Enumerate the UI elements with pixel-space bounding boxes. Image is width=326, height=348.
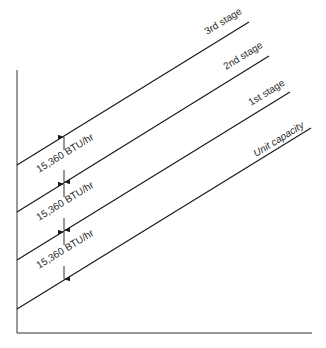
unit-capacity-line: Unit capacity: [17, 119, 311, 309]
stage-line-2nd: 2nd stage: [17, 39, 269, 212]
staging-diagram: 3rd stage 2nd stage 1st stage Unit capac…: [0, 0, 326, 348]
stage-line-1st: 1st stage: [17, 77, 290, 260]
interval-label: 15,360 BTU/hr: [34, 227, 96, 271]
interval-label: 15,360 BTU/hr: [34, 131, 96, 175]
stage-line-3rd: 3rd stage: [17, 5, 249, 165]
interval-1st-unit: 15,360 BTU/hr: [34, 227, 96, 279]
unit-capacity-label: Unit capacity: [251, 119, 306, 159]
stage-label-2nd: 2nd stage: [221, 39, 265, 72]
interval-2nd-1st: 15,360 BTU/hr: [34, 179, 96, 230]
interval-label: 15,360 BTU/hr: [34, 179, 96, 223]
stage-label-3rd: 3rd stage: [202, 5, 244, 36]
stage-label-1st: 1st stage: [246, 77, 287, 108]
interval-3rd-2nd: 15,360 BTU/hr: [34, 131, 96, 182]
